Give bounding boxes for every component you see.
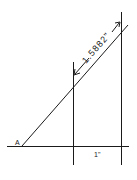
point-label-a: A xyxy=(15,139,20,146)
geometry-diagram: 1.5882" A 1" xyxy=(0,0,137,180)
base-length-label: 1" xyxy=(94,151,101,158)
diagonal-line xyxy=(22,25,128,146)
